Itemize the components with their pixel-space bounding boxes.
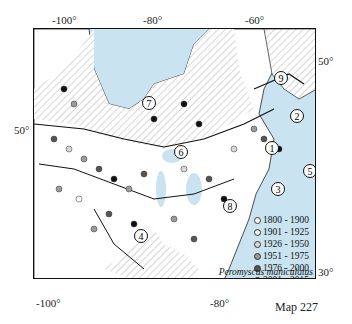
legend-dot-icon bbox=[254, 217, 261, 224]
distribution-map: 1 2 3 4 5 6 7 8 9 1800 - 1900 1901 - 192… bbox=[33, 28, 316, 279]
region-label-6: 6 bbox=[174, 145, 188, 159]
legend-item: 1901 - 1925 bbox=[254, 226, 309, 238]
bottom-axis-label-100: -100° bbox=[36, 297, 61, 309]
top-axis-label-60: -60° bbox=[245, 14, 264, 26]
region-label-4: 4 bbox=[134, 229, 148, 243]
map-number: Map 227 bbox=[275, 300, 318, 315]
right-axis-label-30: 30° bbox=[318, 266, 333, 278]
legend-dot-icon bbox=[254, 253, 261, 260]
left-axis-label-50: 50° bbox=[14, 124, 29, 136]
region-label-1: 1 bbox=[265, 141, 279, 155]
bottom-axis-label-80: -80° bbox=[210, 297, 229, 309]
region-label-2: 2 bbox=[290, 109, 304, 123]
legend-item: 1800 - 1900 bbox=[254, 214, 309, 226]
legend-dot-icon bbox=[254, 229, 261, 236]
region-label-3: 3 bbox=[271, 182, 285, 196]
top-axis-label-80: -80° bbox=[143, 14, 162, 26]
top-axis-label-100: -100° bbox=[52, 14, 77, 26]
region-label-9: 9 bbox=[274, 71, 288, 85]
region-label-8: 8 bbox=[223, 199, 237, 213]
region-label-7: 7 bbox=[142, 96, 156, 110]
legend-item: 1926 - 1950 bbox=[254, 238, 309, 250]
legend-dot-icon bbox=[254, 241, 261, 248]
species-name: Peromyscus maniculatus bbox=[219, 267, 313, 277]
legend-item: 1951 - 1975 bbox=[254, 250, 309, 262]
right-axis-label-50: 50° bbox=[318, 55, 333, 67]
region-label-5: 5 bbox=[303, 164, 316, 178]
